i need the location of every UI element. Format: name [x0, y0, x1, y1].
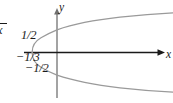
parabola-lower-branch: [32, 53, 173, 93]
clipped-edge-x-glyph: x: [0, 23, 3, 37]
parabola-upper-branch: [32, 13, 173, 53]
x-axis-arrowhead: [158, 49, 166, 55]
x-axis: [24, 49, 165, 55]
parabola-figure: 1/2 −1/3 −1/2 y x x: [0, 0, 173, 103]
tick-label-negative-one-half: −1/2: [25, 62, 49, 75]
tick-label-one-half: 1/2: [21, 29, 36, 42]
x-axis-label: x: [166, 49, 171, 61]
y-axis-label: y: [59, 2, 64, 14]
clipped-edge-x-label: x: [0, 23, 10, 37]
